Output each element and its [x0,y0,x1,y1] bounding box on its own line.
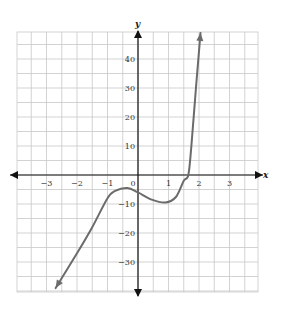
y-axis-up-arrow-icon [134,30,142,38]
tick-labels: −3−2−10123−30−20−1010203040 [41,55,232,267]
x-tick-label: −1 [102,179,114,188]
y-tick-label: −10 [118,200,135,209]
x-tick-label: 3 [227,179,232,188]
y-tick-label: 20 [125,113,135,122]
function-graph: −3−2−10123−30−20−1010203040 x y [0,0,282,310]
curve-end-arrow-icon [196,33,203,41]
y-axis-down-arrow-icon [134,289,142,297]
x-tick-label: −2 [71,179,83,188]
x-tick-label: 0 [130,179,135,188]
y-tick-label: −20 [118,229,135,238]
y-tick-label: −30 [118,258,135,267]
y-tick-label: 10 [125,142,135,151]
x-axis-right-arrow-icon [255,171,263,179]
y-tick-label: 30 [125,84,135,93]
x-axis-label: x [262,170,269,180]
x-tick-label: 2 [196,179,201,188]
x-tick-label: −3 [41,179,53,188]
y-tick-label: 40 [125,55,135,64]
x-tick-label: 1 [166,179,171,188]
x-axis-left-arrow-icon [10,171,18,179]
axes [10,30,263,297]
y-axis-label: y [134,19,141,29]
